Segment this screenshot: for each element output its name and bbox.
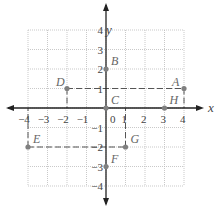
point-F <box>103 164 108 169</box>
point-label-G: G <box>131 132 140 146</box>
point-label-B: B <box>111 54 119 68</box>
point-label-H: H <box>169 93 180 107</box>
x-tick-label: 1 <box>122 113 128 125</box>
y-tick-label: −4 <box>91 180 103 192</box>
point-D <box>64 86 69 91</box>
x-tick-label: −2 <box>57 113 69 125</box>
y-tick-label: −3 <box>91 161 103 173</box>
x-tick-label: 2 <box>141 113 147 125</box>
y-tick-label: −2 <box>91 141 103 153</box>
point-C <box>103 105 108 110</box>
point-E <box>25 144 30 149</box>
x-tick-label: 4 <box>180 113 186 125</box>
y-axis-label: y <box>104 22 112 37</box>
point-G <box>123 144 128 149</box>
x-tick-label: 0 <box>110 113 116 125</box>
y-tick-label: 2 <box>98 63 104 75</box>
y-tick-label: −1 <box>91 122 103 134</box>
point-label-F: F <box>110 152 119 166</box>
x-tick-label: −3 <box>38 113 50 125</box>
y-tick-label: 1 <box>98 83 104 95</box>
x-axis-left-arrow-icon <box>6 105 14 111</box>
axes: x y <box>6 3 214 206</box>
point-label-D: D <box>55 75 65 89</box>
x-axis-label: x <box>207 100 214 115</box>
x-axis-right-arrow-icon <box>196 105 204 111</box>
coordinate-plane: x y −4−3−2−1012344321−1−2−3−4 ABCDEFGH <box>0 0 217 209</box>
point-B <box>103 66 108 71</box>
x-tick-label: 3 <box>161 113 167 125</box>
x-tick-label: −4 <box>18 113 30 125</box>
x-tick-label: −1 <box>77 113 89 125</box>
y-axis-down-arrow-icon <box>103 198 109 206</box>
point-label-E: E <box>32 132 41 146</box>
point-A <box>181 86 186 91</box>
point-label-A: A <box>171 75 180 89</box>
y-tick-label: 3 <box>98 44 104 56</box>
y-tick-label: 4 <box>98 24 104 36</box>
point-label-C: C <box>111 93 120 107</box>
y-axis-up-arrow-icon <box>103 3 109 11</box>
point-H <box>162 105 167 110</box>
